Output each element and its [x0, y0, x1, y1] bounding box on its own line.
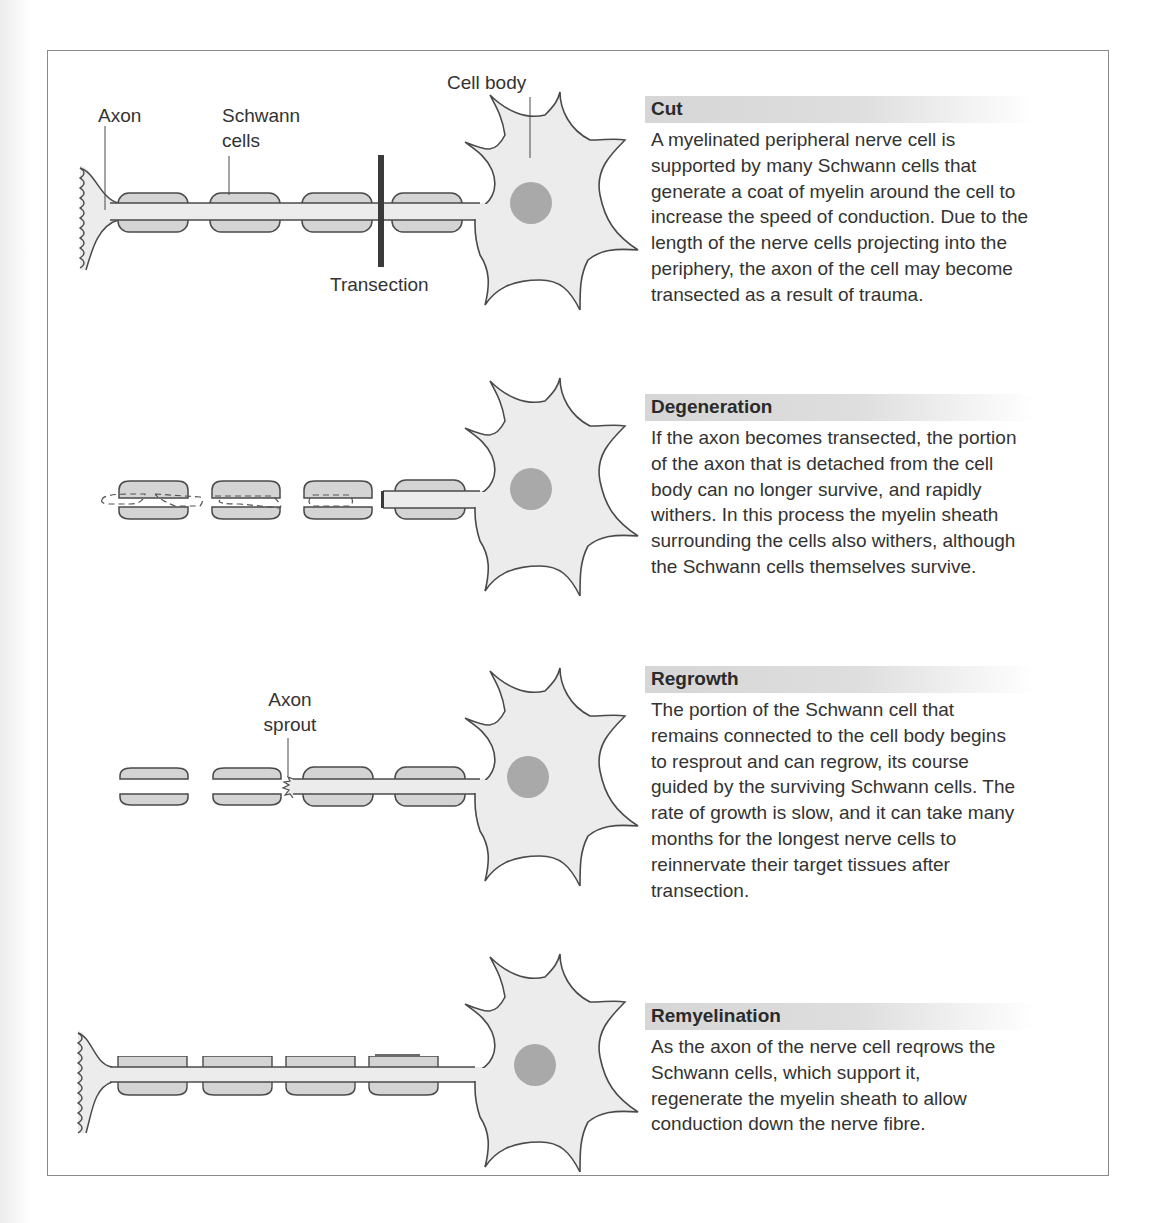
panel-degeneration-diagram: [102, 378, 639, 596]
label-transection: Transection: [330, 272, 429, 297]
section-body-regrowth: The portion of the Schwann cell that rem…: [645, 697, 1085, 903]
section-title-remyelination: Remyelination: [645, 1003, 1035, 1030]
label-axon-sprout-line1: Axon: [258, 687, 322, 712]
section-remyelination: Remyelination As the axon of the nerve c…: [645, 1003, 1085, 1137]
section-body-remyelination: As the axon of the nerve cell reqrows th…: [645, 1034, 1085, 1137]
label-axon-sprout-line2: sprout: [258, 712, 322, 737]
section-degeneration: Degeneration If the axon becomes transec…: [645, 394, 1085, 580]
section-body-cut: A myelinated peripheral nerve cell is su…: [645, 127, 1085, 308]
section-title-cut: Cut: [645, 96, 1035, 123]
section-title-regrowth: Regrowth: [645, 666, 1035, 693]
label-schwann-cells-line1: Schwann: [222, 103, 300, 128]
section-title-degeneration: Degeneration: [645, 394, 1035, 421]
panel-regrowth-diagram: [120, 668, 638, 886]
label-schwann-cells-line2: cells: [222, 128, 260, 153]
section-body-degeneration: If the axon becomes transected, the port…: [645, 425, 1085, 580]
panel-remyelination-diagram: [78, 954, 638, 1172]
section-regrowth: Regrowth The portion of the Schwann cell…: [645, 666, 1085, 903]
section-cut: Cut A myelinated peripheral nerve cell i…: [645, 96, 1085, 308]
label-cell-body: Cell body: [447, 70, 526, 95]
label-axon: Axon: [98, 103, 141, 128]
